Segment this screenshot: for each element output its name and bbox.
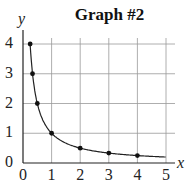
y-tick-label: 4 xyxy=(5,34,13,52)
x-tick-label: 1 xyxy=(48,166,56,184)
data-point xyxy=(49,131,54,136)
x-tick-label: 0 xyxy=(19,166,27,184)
x-tick-label: 4 xyxy=(133,166,141,184)
data-point xyxy=(135,153,140,158)
x-tick-label: 5 xyxy=(162,166,170,184)
x-tick-label: 2 xyxy=(76,166,84,184)
data-point xyxy=(106,151,111,156)
data-curve xyxy=(30,44,166,157)
data-point xyxy=(78,146,83,151)
y-tick-label: 0 xyxy=(5,153,13,171)
plot-area xyxy=(0,0,189,186)
data-point xyxy=(28,42,33,47)
y-tick-label: 2 xyxy=(5,94,13,112)
y-tick-label: 3 xyxy=(5,64,13,82)
x-tick-label: 3 xyxy=(105,166,113,184)
data-point xyxy=(35,101,40,106)
y-tick-label: 1 xyxy=(5,123,13,141)
data-point xyxy=(30,71,35,76)
